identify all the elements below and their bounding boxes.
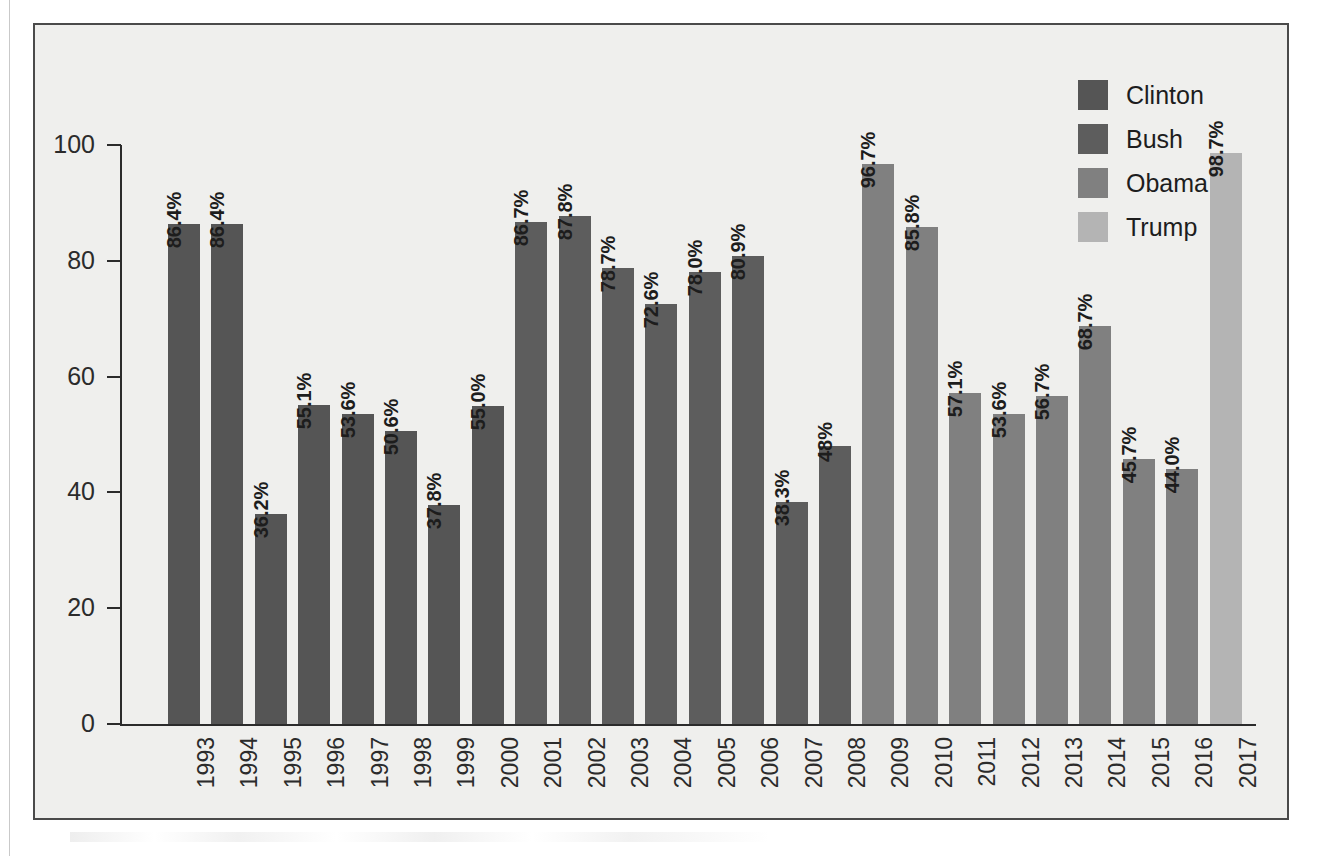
bar-value-label: 53.6%	[989, 381, 1009, 438]
bar-value-label: 96.7%	[858, 132, 878, 189]
x-axis-tick-label: 1999	[455, 737, 478, 788]
figure-frame: 100806040200 86.4%86.4%36.2%55.1%53.6%50…	[33, 23, 1289, 820]
bar[interactable]: 48%	[819, 446, 851, 724]
legend-swatch-icon	[1078, 168, 1108, 198]
bar-rect	[776, 502, 808, 724]
bar[interactable]: 85.8%	[906, 227, 938, 724]
x-axis-tick-label: 1998	[412, 737, 435, 788]
bar[interactable]: 72.6%	[645, 304, 677, 724]
bar-value-label: 72.6%	[641, 271, 661, 328]
bar[interactable]: 78.7%	[602, 268, 634, 724]
bar-value-label: 86.4%	[207, 191, 227, 248]
x-axis-tick-label: 2011	[976, 737, 999, 786]
bar-rect	[862, 164, 894, 724]
bar-rect	[602, 268, 634, 724]
x-axis-tick-label: 2010	[933, 737, 956, 788]
x-axis-tick-label: 2009	[889, 737, 912, 788]
bar-value-label: 36.2%	[251, 482, 271, 539]
bar-value-label: 68.7%	[1075, 294, 1095, 351]
scan-ghost-artifact	[70, 832, 770, 842]
bar-value-label: 80.9%	[728, 223, 748, 280]
bar-value-label: 78.7%	[598, 236, 618, 293]
x-axis-tick-label: 2000	[499, 737, 522, 788]
bar-rect	[906, 227, 938, 724]
chart-legend: ClintonBushObamaTrump	[1078, 73, 1268, 249]
legend-item-label: Trump	[1126, 215, 1197, 240]
bar-rect	[1036, 396, 1068, 724]
x-axis-tick-label: 1995	[282, 737, 305, 788]
bar-value-label: 37.8%	[424, 473, 444, 530]
bar-rect	[819, 446, 851, 724]
x-axis-tick-label: 2017	[1237, 737, 1260, 788]
bar[interactable]: 45.7%	[1123, 459, 1155, 724]
legend-item-clinton[interactable]: Clinton	[1078, 73, 1268, 117]
x-axis-tick-label: 2016	[1193, 737, 1216, 788]
bar[interactable]: 37.8%	[428, 505, 460, 724]
bar-rect	[211, 224, 243, 724]
bar-value-label: 55.0%	[468, 373, 488, 430]
bar-rect	[559, 216, 591, 724]
x-axis-tick-label: 2003	[629, 737, 652, 788]
bar-rect	[168, 224, 200, 724]
bar-rect	[1166, 469, 1198, 724]
legend-swatch-icon	[1078, 80, 1108, 110]
bar[interactable]: 38.3%	[776, 502, 808, 724]
bar[interactable]: 53.6%	[993, 414, 1025, 724]
legend-item-bush[interactable]: Bush	[1078, 117, 1268, 161]
bar-rect	[689, 272, 721, 724]
x-axis-tick-label: 2008	[846, 737, 869, 788]
x-axis-tick-label: 1996	[325, 737, 348, 788]
bar[interactable]: 86.4%	[211, 224, 243, 724]
bar-value-label: 85.8%	[902, 195, 922, 252]
bar[interactable]: 86.7%	[515, 222, 547, 724]
x-axis-tick-label: 2015	[1150, 737, 1173, 788]
x-axis-tick-label: 1993	[195, 737, 218, 788]
bar[interactable]: 56.7%	[1036, 396, 1068, 724]
bar[interactable]: 55.0%	[472, 406, 504, 724]
bar[interactable]: 87.8%	[559, 216, 591, 724]
bar-value-label: 78.0%	[685, 240, 705, 297]
bar-value-label: 53.6%	[338, 381, 358, 438]
bar-value-label: 55.1%	[294, 373, 314, 430]
legend-item-label: Clinton	[1126, 83, 1204, 108]
bar-rect	[1079, 326, 1111, 724]
bar-chart-plot: 100806040200 86.4%86.4%36.2%55.1%53.6%50…	[35, 25, 1291, 822]
bar[interactable]: 44.0%	[1166, 469, 1198, 724]
x-axis-tick-label: 2007	[803, 737, 826, 788]
x-axis-tick-label: 1997	[369, 737, 392, 788]
legend-item-trump[interactable]: Trump	[1078, 205, 1268, 249]
bar-rect	[732, 256, 764, 724]
x-axis-tick-label: 2013	[1063, 737, 1086, 788]
bar-value-label: 44.0%	[1162, 437, 1182, 494]
x-axis-tick-label: 2005	[716, 737, 739, 788]
bar-rect	[298, 405, 330, 724]
x-axis-tick-label: 2012	[1020, 737, 1043, 788]
bar[interactable]: 36.2%	[255, 514, 287, 724]
bar-rect	[949, 393, 981, 724]
bar-rect	[428, 505, 460, 724]
bar[interactable]: 55.1%	[298, 405, 330, 724]
bar-rect	[342, 414, 374, 724]
bar[interactable]: 53.6%	[342, 414, 374, 724]
legend-item-label: Obama	[1126, 171, 1208, 196]
x-axis-tick-label: 1994	[238, 737, 261, 788]
bar[interactable]: 96.7%	[862, 164, 894, 724]
x-axis-tick-label: 2004	[672, 737, 695, 788]
legend-item-obama[interactable]: Obama	[1078, 161, 1268, 205]
bar[interactable]: 78.0%	[689, 272, 721, 724]
bar-rect	[993, 414, 1025, 724]
scan-edge-rule	[9, 0, 10, 856]
bar[interactable]: 68.7%	[1079, 326, 1111, 724]
bar-value-label: 87.8%	[555, 183, 575, 240]
bar-value-label: 57.1%	[945, 361, 965, 418]
legend-swatch-icon	[1078, 124, 1108, 154]
bar[interactable]: 50.6%	[385, 431, 417, 724]
bar[interactable]: 80.9%	[732, 256, 764, 724]
bar-rect	[645, 304, 677, 724]
bar[interactable]: 57.1%	[949, 393, 981, 724]
bar[interactable]: 86.4%	[168, 224, 200, 724]
x-axis-tick-label: 2002	[586, 737, 609, 788]
bar-rect	[385, 431, 417, 724]
bar-value-label: 38.3%	[772, 470, 792, 527]
legend-swatch-icon	[1078, 212, 1108, 242]
